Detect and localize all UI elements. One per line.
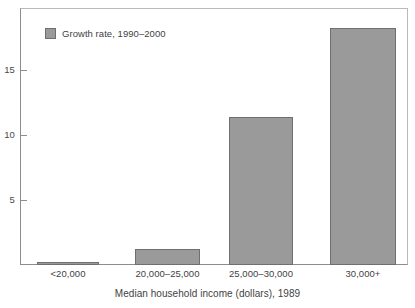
- bar-25000-30000: [229, 117, 293, 265]
- y-axis-tick-5: [20, 200, 27, 201]
- legend-swatch-growth-rate: [45, 28, 56, 39]
- legend-label-growth-rate: Growth rate, 1990–2000: [62, 28, 166, 39]
- y-axis-label-10: 10: [0, 130, 15, 140]
- y-axis-label-5: 5: [0, 195, 15, 205]
- y-axis-label-10-wrap: 10: [0, 130, 15, 140]
- y-axis-tick-10: [20, 135, 27, 136]
- bar-30000-plus: [330, 28, 396, 265]
- bar-chart: 15 10 5 Growth rate, 1990–2000 <20,000 2…: [0, 0, 415, 308]
- x-axis-label-30000-plus: 30,000+: [303, 268, 415, 279]
- bar-lt-20000: [37, 262, 99, 265]
- x-axis-title: Median household income (dollars), 1989: [0, 288, 415, 300]
- y-axis-label-5-wrap: 5: [0, 195, 15, 205]
- y-axis-label-15-wrap: 15: [0, 65, 15, 75]
- y-axis-label-15: 15: [0, 65, 15, 75]
- y-axis-tick-15: [20, 70, 27, 71]
- legend: Growth rate, 1990–2000: [45, 28, 166, 39]
- bar-20000-25000: [135, 249, 200, 265]
